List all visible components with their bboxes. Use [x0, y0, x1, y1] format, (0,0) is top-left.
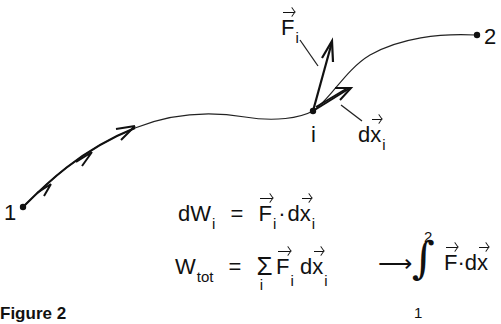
force-label-leader: [300, 40, 318, 66]
displacement-d: d: [358, 122, 370, 147]
eq2-equals: =: [229, 254, 242, 279]
eq1-equals: =: [230, 201, 243, 226]
eq2-lhs-sub: tot: [197, 268, 214, 285]
point-i-label: i: [311, 124, 316, 146]
integrand-force: F: [444, 252, 457, 274]
eq2-lhs: W: [175, 254, 196, 279]
figure-caption: Figure 2: [0, 304, 66, 324]
integrand-d: d: [465, 250, 477, 275]
point-1-label: 1: [4, 202, 16, 224]
path-start-segment: [23, 128, 135, 207]
integrand-x: x: [477, 252, 488, 274]
point-2-marker: [474, 32, 480, 38]
point-1-marker: [20, 204, 26, 210]
equation-total-work: Wtot = Σi Fi dxi: [175, 252, 328, 278]
eq1-force-sub: i: [273, 215, 276, 232]
eq1-lhs: dW: [178, 201, 211, 226]
eq1-x-sub: i: [312, 215, 315, 232]
point-2-label: 2: [484, 26, 496, 48]
integral-lower-limit: 1: [414, 304, 422, 321]
eq1-lhs-sub: i: [212, 215, 215, 232]
force-label: Fi: [281, 17, 299, 39]
summation-icon: Σ: [257, 251, 273, 281]
force-symbol: F: [281, 17, 294, 39]
integrand-dot: ·: [457, 250, 464, 275]
direction-arrow-icon: [37, 126, 135, 196]
path-curve: [23, 35, 476, 207]
eq1-dot: ·: [278, 201, 285, 226]
integral-upper-limit: 2: [424, 228, 432, 245]
displacement-label-leader: [341, 105, 362, 121]
eq2-x-sub: i: [324, 272, 327, 289]
integrand: F·dx: [444, 252, 488, 274]
eq2-d: d: [300, 254, 312, 279]
eq2-force-sub: i: [291, 272, 294, 289]
displacement-subscript: i: [382, 136, 385, 153]
eq1-force: F: [258, 203, 271, 225]
displacement-label: dxi: [358, 124, 386, 146]
displacement-symbol: x: [370, 124, 381, 146]
eq2-force: F: [276, 256, 289, 278]
eq2-x: x: [312, 256, 323, 278]
eq2-sum-sub: i: [260, 276, 263, 293]
equation-work-increment: dWi = Fi·dxi: [178, 203, 315, 225]
force-subscript: i: [295, 29, 298, 46]
limit-arrow-icon: ⟶: [378, 252, 412, 276]
eq1-x: x: [300, 203, 311, 225]
eq1-d: d: [288, 201, 300, 226]
